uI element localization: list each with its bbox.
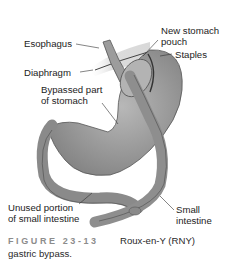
figure-title-line1: Roux-en-Y (RNY) bbox=[120, 235, 195, 246]
label-bypassed-line1: Bypassed part bbox=[41, 84, 102, 95]
label-staples: Staples bbox=[175, 49, 207, 60]
label-diaphragm: Diaphragm bbox=[24, 67, 71, 78]
figure-number: FIGURE 23-13 bbox=[8, 236, 99, 246]
label-bypassed-line2: of stomach bbox=[41, 95, 88, 106]
label-unused-line1: Unused portion bbox=[8, 202, 73, 213]
anastomosis bbox=[129, 207, 141, 215]
label-small-intestine-line1: Small bbox=[176, 204, 200, 215]
label-esophagus: Esophagus bbox=[24, 38, 72, 49]
label-small-intestine-line2: intestine bbox=[176, 215, 212, 226]
label-new-stomach-pouch-line1: New stomach bbox=[161, 25, 219, 36]
label-unused-line2: of small intestine bbox=[8, 213, 79, 224]
label-new-stomach-pouch-line2: pouch bbox=[161, 36, 187, 47]
figure-title-line2: gastric bypass. bbox=[8, 248, 72, 259]
